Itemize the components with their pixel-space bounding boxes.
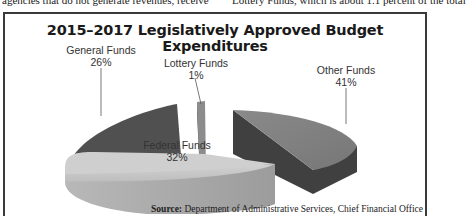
label-federal-funds-value: 32% — [125, 151, 229, 163]
leader-lottery — [195, 78, 201, 104]
chart-source: Source: Department of Administrative Ser… — [151, 204, 423, 214]
document-text-fragment: agencies that do not generate revenues, … — [0, 0, 433, 6]
document-text-left: agencies that do not generate revenues, … — [2, 0, 209, 6]
label-general-funds-name: General Funds — [49, 44, 153, 56]
label-federal-funds-name: Federal Funds — [125, 139, 229, 151]
document-text-right: Lottery Funds, which is about 1.1 percen… — [232, 0, 466, 6]
source-text: Department of Administrative Services, C… — [184, 204, 423, 214]
label-general-funds: General Funds 26% — [49, 44, 153, 68]
label-other-funds: Other Funds 41% — [296, 64, 396, 88]
label-lottery-funds-value: 1% — [151, 69, 241, 81]
label-lottery-funds-name: Lottery Funds — [151, 57, 241, 69]
label-other-funds-name: Other Funds — [296, 64, 396, 76]
chart-frame: 2015–2017 Legislatively Approved Budget … — [3, 12, 427, 216]
label-lottery-funds: Lottery Funds 1% — [151, 57, 241, 81]
label-other-funds-value: 41% — [296, 76, 396, 88]
label-federal-funds: Federal Funds 32% — [125, 139, 229, 163]
source-label: Source: — [151, 204, 182, 214]
label-general-funds-value: 26% — [49, 56, 153, 68]
